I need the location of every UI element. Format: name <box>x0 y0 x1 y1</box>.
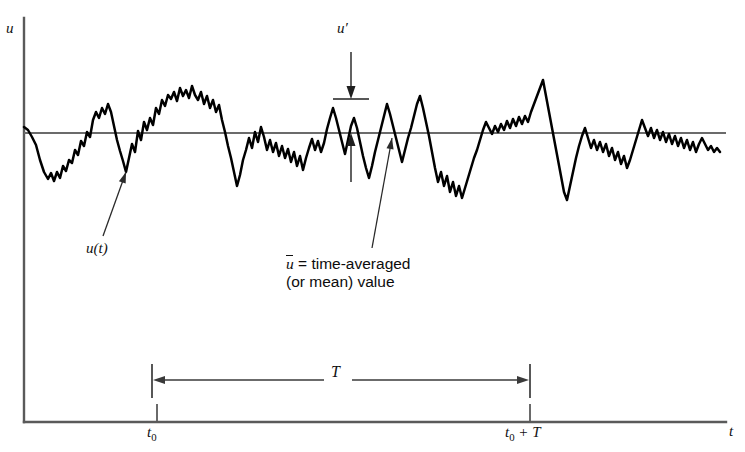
tick-label-t0-plus-T: t0 + T <box>505 424 541 444</box>
mean-value-annotation-line1: u = time-averaged <box>286 255 411 272</box>
mean-value-leader-arrowhead <box>386 138 393 149</box>
T-span-right-arrowhead <box>517 376 529 384</box>
mean-value-annotation-line1-rest: = time-averaged <box>294 255 411 272</box>
u-of-t-leader <box>103 172 126 236</box>
x-axis-ticks <box>157 404 530 422</box>
T-span-dimension <box>152 364 530 398</box>
y-axis-label: u <box>6 20 14 38</box>
plot-canvas <box>0 0 745 452</box>
T-span-left-arrowhead <box>153 376 165 384</box>
u-prime-label: u′ <box>337 20 348 38</box>
T-span-label: T <box>331 363 340 382</box>
u-of-t-leader-arrowhead <box>119 172 126 184</box>
u-bar-symbol: u <box>286 255 294 273</box>
x-axis-label: t <box>729 423 733 441</box>
mean-value-annotation-line2: (or mean) value <box>286 273 411 291</box>
tick-label-t0: t0 <box>147 424 157 444</box>
turbulence-figure: u t u′ u(t) u = time-averaged (or mean) … <box>0 0 745 452</box>
axes-group <box>24 18 726 422</box>
u-of-t-label: u(t) <box>86 240 108 258</box>
mean-value-annotation: u = time-averaged (or mean) value <box>286 255 411 292</box>
u-prime-down-arrowhead <box>347 86 356 99</box>
velocity-signal-trace <box>24 80 720 200</box>
